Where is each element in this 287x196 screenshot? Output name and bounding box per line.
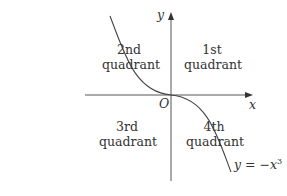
quadrant-3-label: 3rd quadrant	[99, 119, 155, 149]
origin-label: O	[159, 96, 169, 111]
quadrant-1-line1: 1st	[184, 42, 240, 57]
quadrant-4-line2: quadrant	[186, 134, 242, 149]
equation-op: =	[245, 157, 255, 172]
equation-lhs: y	[234, 157, 241, 172]
y-axis-label: y	[157, 7, 164, 22]
quadrant-3-line1: 3rd	[99, 119, 155, 134]
quadrant-4-label: 4th quadrant	[186, 119, 242, 149]
quadrant-2-line2: quadrant	[102, 57, 156, 72]
quadrant-2-label: 2nd quadrant	[102, 42, 156, 72]
quadrant-1-line2: quadrant	[184, 57, 240, 72]
quadrant-3-line2: quadrant	[99, 134, 155, 149]
quadrant-2-line1: 2nd	[102, 42, 156, 57]
equation-exponent: 3	[277, 157, 282, 166]
curve-equation-label: y = −x3	[234, 154, 282, 172]
quadrant-4-line1: 4th	[186, 119, 242, 134]
quadrant-1-label: 1st quadrant	[184, 42, 240, 72]
equation-rhs: −x	[260, 157, 278, 172]
x-axis-label: x	[249, 97, 256, 112]
y-axis-arrow-icon	[168, 12, 174, 20]
